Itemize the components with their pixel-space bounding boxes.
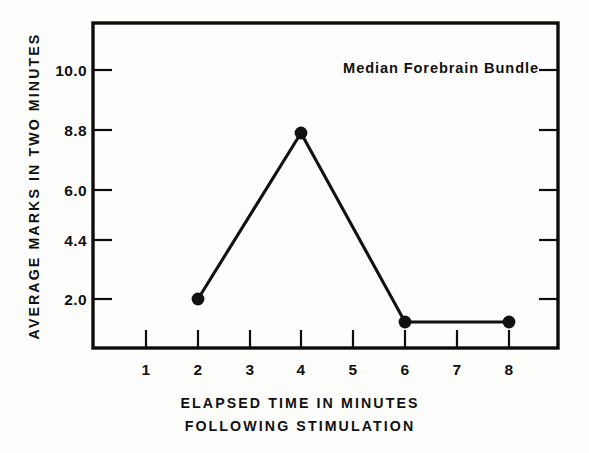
x-tick-label-8: 8 <box>504 361 513 378</box>
y-axis-title: AVERAGE MARKS IN TWO MINUTES <box>26 33 42 340</box>
chart-figure: 10.0 8.8 6.0 4.4 2.0 1 2 3 4 5 6 7 8 Med… <box>0 0 589 453</box>
y-tick-label-10-0: 10.0 <box>55 62 87 79</box>
y-tick-label-4-4: 4.4 <box>64 232 87 249</box>
x-tick-label-2: 2 <box>193 361 202 378</box>
data-point-marker <box>503 316 516 329</box>
line-chart: 10.0 8.8 6.0 4.4 2.0 1 2 3 4 5 6 7 8 Med… <box>0 0 589 453</box>
x-tick-label-1: 1 <box>141 361 150 378</box>
x-axis-tick-labels: 1 2 3 4 5 6 7 8 <box>141 361 513 378</box>
y-tick-label-2-0: 2.0 <box>64 291 87 308</box>
x-tick-label-4: 4 <box>296 361 305 378</box>
x-axis-title-line1: ELAPSED TIME IN MINUTES <box>180 395 419 411</box>
x-tick-label-3: 3 <box>245 361 254 378</box>
data-point-marker <box>399 316 412 329</box>
x-axis-title-line2: FOLLOWING STIMULATION <box>185 418 416 434</box>
data-point-marker <box>192 293 205 306</box>
y-tick-label-6-0: 6.0 <box>64 182 87 199</box>
x-tick-label-6: 6 <box>400 361 409 378</box>
series-annotation-label: Median Forebrain Bundle <box>343 60 539 76</box>
data-point-marker <box>295 127 308 140</box>
x-tick-label-7: 7 <box>452 361 461 378</box>
y-tick-label-8-8: 8.8 <box>64 122 87 139</box>
y-axis-tick-labels: 10.0 8.8 6.0 4.4 2.0 <box>55 62 87 308</box>
x-tick-label-5: 5 <box>348 361 357 378</box>
